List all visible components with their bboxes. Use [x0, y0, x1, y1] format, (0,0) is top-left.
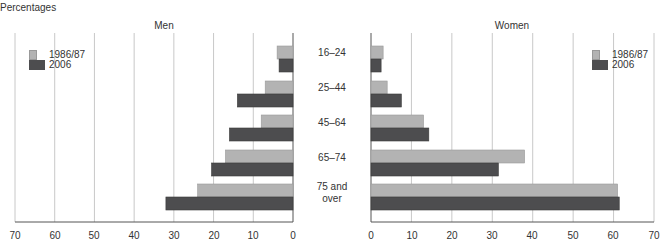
men-bar-2006 — [237, 94, 293, 107]
category-label-75-line2: over — [322, 193, 341, 204]
women-tick-50: 50 — [567, 230, 578, 241]
women-bar-2006 — [371, 59, 381, 72]
women-tick-40: 40 — [526, 230, 537, 241]
women-bar-1986 — [371, 184, 618, 197]
men-bar-2006 — [279, 59, 293, 72]
women-bar-2006 — [371, 163, 498, 176]
category-label-45-64: 45–64 — [302, 117, 362, 129]
men-bar-1986 — [198, 184, 293, 197]
women-tick-20: 20 — [446, 230, 457, 241]
women-tick-30: 30 — [486, 230, 497, 241]
men-bar-1986 — [261, 115, 293, 128]
category-label-25-44: 25–44 — [302, 82, 362, 94]
men-tick-40: 40 — [128, 230, 139, 241]
women-tick-10: 10 — [406, 230, 417, 241]
men-bar-1986 — [265, 81, 293, 94]
women-bar-2006 — [371, 197, 619, 210]
women-tick-60: 60 — [607, 230, 618, 241]
men-tick-10: 10 — [247, 230, 258, 241]
men-tick-60: 60 — [49, 230, 60, 241]
category-label-75-over: 75 and over — [302, 181, 362, 205]
legend-swatch-light — [29, 50, 37, 60]
men-bar-2006 — [166, 197, 293, 210]
women-bar-2006 — [371, 94, 401, 107]
men-bar-1986 — [277, 46, 293, 59]
men-tick-30: 30 — [168, 230, 179, 241]
men-tick-0: 0 — [290, 230, 296, 241]
men-tick-70: 70 — [9, 230, 20, 241]
legend-label-2006: 2006 — [49, 60, 71, 70]
men-bar-2006 — [229, 128, 293, 141]
men-bar-1986 — [225, 150, 293, 163]
category-label-16-24: 16–24 — [302, 47, 362, 59]
category-label-75-line1: 75 and — [317, 181, 348, 192]
women-tick-70: 70 — [648, 230, 659, 241]
women-tick-0: 0 — [368, 230, 374, 241]
women-bar-1986 — [371, 115, 424, 128]
legend-label-2006: 2006 — [612, 60, 634, 70]
legend-swatch-dark — [592, 60, 608, 70]
women-bar-1986 — [371, 150, 525, 163]
legend-swatch-light — [592, 50, 600, 60]
men-tick-50: 50 — [88, 230, 99, 241]
women-bar-2006 — [371, 128, 429, 141]
women-bar-1986 — [371, 81, 387, 94]
men-bar-2006 — [212, 163, 293, 176]
women-bar-1986 — [371, 46, 383, 59]
men-tick-20: 20 — [208, 230, 219, 241]
legend-swatch-dark — [29, 60, 45, 70]
category-label-65-74: 65–74 — [302, 152, 362, 164]
